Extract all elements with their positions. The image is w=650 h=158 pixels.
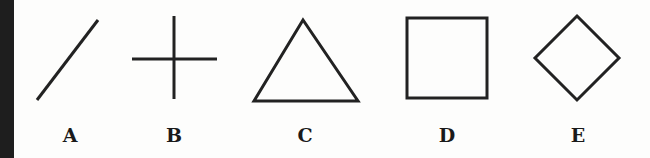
label-d: D xyxy=(432,124,462,146)
shape-a-diagonal-line-icon xyxy=(37,20,98,100)
shape-d-square-icon xyxy=(407,18,487,98)
label-e: E xyxy=(563,124,593,146)
shape-c-triangle-icon xyxy=(254,20,358,101)
shape-e-diamond-icon xyxy=(535,16,619,100)
shapes-diagram xyxy=(0,0,650,158)
label-c: C xyxy=(290,124,320,146)
shape-b-cross-icon xyxy=(132,16,217,99)
label-a: A xyxy=(55,124,85,146)
label-b: B xyxy=(159,124,189,146)
